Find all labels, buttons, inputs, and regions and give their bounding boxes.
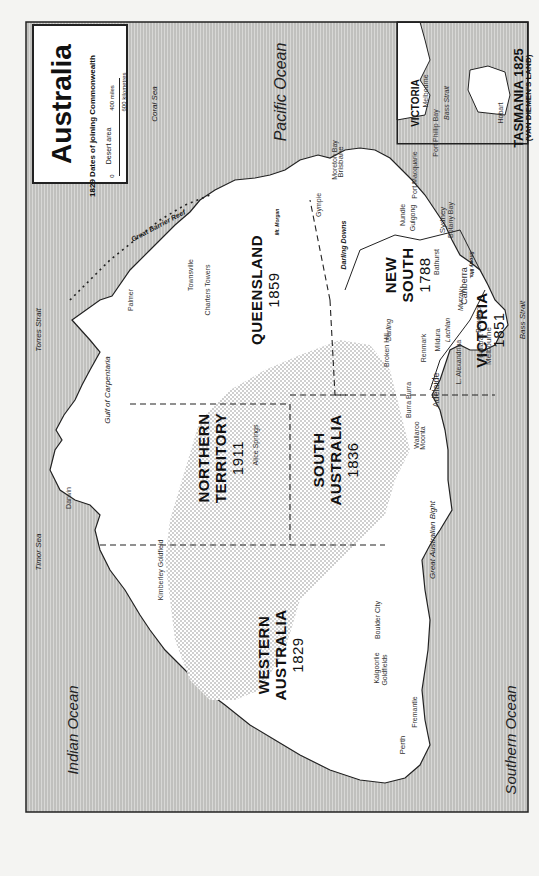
town-alice-springs: Alice Springs [252,425,259,466]
label-indian-ocean: Indian Ocean [64,685,81,774]
label-great-australian-bight: Great Australian Bight [428,501,437,579]
town-ballarat: Ballarat [477,334,484,358]
town-goldfields: Goldfields [381,654,388,685]
inset-tasmania-subtitle: (VAN DIEMEN'S LAND) [524,55,533,142]
scale-km: 600 kilometres [121,72,127,111]
town-boulder-city: Boulder City [374,601,381,639]
town-port-macquarie: Port Macquarie [411,151,418,198]
legend-dates: 1829 Dates of joining Commonwealth [88,55,97,197]
town-townsville: Townsville [187,259,194,291]
town-botany-bay: Botany Bay [447,202,454,238]
inset-port-phillip-bay: Port Phillip Bay [432,109,439,156]
label-snowy-mts: Snowy Mts. [469,251,475,279]
inset-victoria-label: VICTORIA [410,79,421,127]
state-northern-territory: NORTHERNTERRITORY1911 [195,413,246,503]
label-bass-strait: Bass Strait [518,301,527,340]
town-gulgong: Gulgong [409,205,416,231]
scale-bar [119,78,120,176]
town-moonta: Moonta [419,426,426,449]
town-melbourne: Melbourne [484,327,493,365]
desert-swatch [98,162,108,174]
state-south-australia: SOUTHAUSTRALIA1836 [310,414,361,505]
label-torres-strait: Torres Strait [34,308,43,351]
tasmania-inset: VICTORIA Melbourne Port Phillip Bay Bass… [397,22,528,144]
scale-miles: 400 miles [109,85,115,111]
town-kalgoorlie: Kalgoorlie [373,652,380,683]
town-fremantle: Fremantle [411,696,418,728]
state-new-south-wales: NEWSOUTH1788 [382,248,433,303]
label-lachlan-river: Lachlan [444,318,451,343]
label-southern-ocean: Southern Ocean [502,685,519,794]
inset-bass-strait: Bass Strait [443,86,450,120]
town-charters-towers: Charters Towers [204,265,211,316]
town-adelaide: Adelaide [431,372,441,407]
town-renmark: Renmark [420,334,427,362]
town-gympie: Gympie [315,193,322,217]
town-mildura: Mildura [434,329,441,352]
town-sydney: Sydney [438,207,447,234]
town-canberra: Canberra [459,267,469,305]
town-kimberley-goldfield: Kimberley Goldfield [157,540,164,601]
map-title: Australia [46,44,78,164]
town-broken-hill: Broken Hill [383,333,390,367]
label-timor-sea: Timor Sea [34,534,43,571]
label-mt-morgan: Mt. Morgan [274,209,280,236]
town-brisbane: Brisbane [336,146,345,178]
town-bendigo: Bendigo [475,307,482,333]
label-pacific-ocean: Pacific Ocean [272,43,290,142]
scale-zero: 0 [109,174,115,177]
inset-hobart: Hobart [497,102,504,123]
legend-desert: Desert area [105,128,112,165]
inset-melbourne: Melbourne [422,74,429,107]
town-darwin: Darwin [65,487,72,509]
town-palmer: Palmer [127,289,134,311]
label-darling-downs: Darling Downs [340,220,347,269]
label-gulf-carpentaria: Gulf of Carpentaria [103,356,112,424]
town-bathurst: Bathurst [433,249,440,275]
map-legend: Australia 1829 Dates of joining Commonwe… [32,24,128,184]
label-coral-sea: Coral Sea [150,86,159,122]
label-l-alexandrina: L. Alexandrina [455,340,462,384]
town-nundle: Nundle [399,204,406,226]
town-burra-burra: Burra Burra [405,382,412,418]
state-western-australia: WESTERNAUSTRALIA1829 [255,609,306,700]
town-perth: Perth [398,735,407,754]
state-queensland: QUEENSLAND1859 [248,235,282,345]
